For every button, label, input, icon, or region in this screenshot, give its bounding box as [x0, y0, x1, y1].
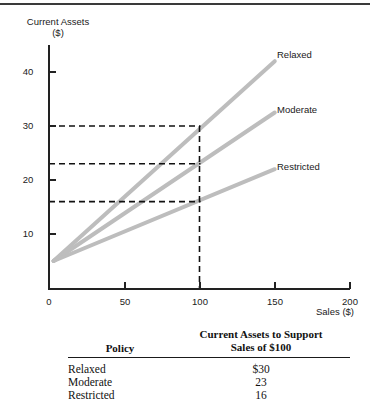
y-axis-title-line1: Current Assets — [12, 16, 104, 27]
chart-panel: Current Assets ($) Sales ($) 40 30 20 10… — [0, 0, 370, 325]
summary-table: Policy Current Assets to Support Sales o… — [68, 328, 350, 401]
y-tick-label-40: 40 — [14, 66, 42, 77]
table-header-rule-cell — [68, 355, 350, 362]
line-restricted — [54, 169, 275, 261]
x-axis-title: Sales ($) — [268, 306, 354, 317]
series-label-relaxed: Relaxed — [277, 49, 312, 60]
y-axis-ticks — [49, 72, 56, 234]
table-header-row: Policy Current Assets to Support Sales o… — [68, 328, 350, 355]
table-header-rule — [68, 357, 350, 358]
y-tick-label-30: 30 — [14, 120, 42, 131]
y-axis-title-line2: ($) — [12, 27, 104, 38]
x-tick-label-100: 100 — [186, 296, 214, 307]
x-tick-label-200: 200 — [336, 296, 364, 307]
series-label-moderate: Moderate — [277, 104, 317, 115]
series-label-restricted: Restricted — [277, 161, 320, 172]
cell-policy-moderate: Moderate — [68, 375, 172, 388]
table-body: Relaxed $30 Moderate 23 Restricted 16 — [68, 362, 350, 401]
x-tick-label-50: 50 — [111, 296, 139, 307]
y-tick-label-10: 10 — [14, 228, 42, 239]
y-tick-label-20: 20 — [14, 174, 42, 185]
table-row: Moderate 23 — [68, 375, 350, 388]
series-lines — [54, 61, 275, 261]
cell-value-restricted: 16 — [172, 388, 350, 401]
line-relaxed — [54, 61, 275, 261]
cell-policy-relaxed: Relaxed — [68, 362, 172, 375]
table-header-rule-row — [68, 355, 350, 362]
header-current-assets-line1: Current Assets to Support — [172, 328, 350, 341]
cell-value-moderate: 23 — [172, 375, 350, 388]
summary-table-block: Policy Current Assets to Support Sales o… — [0, 325, 370, 416]
figure-root: Current Assets ($) Sales ($) 40 30 20 10… — [0, 0, 370, 416]
cell-value-relaxed: $30 — [172, 362, 350, 375]
header-policy: Policy — [68, 328, 172, 355]
table-head: Policy Current Assets to Support Sales o… — [68, 328, 350, 362]
header-current-assets: Current Assets to Support Sales of $100 — [172, 328, 350, 355]
table-row: Restricted 16 — [68, 388, 350, 401]
cell-policy-restricted: Restricted — [68, 388, 172, 401]
header-current-assets-line2: Sales of $100 — [172, 341, 350, 354]
x-tick-label-0: 0 — [35, 296, 63, 307]
x-tick-label-150: 150 — [261, 296, 289, 307]
line-moderate — [54, 113, 275, 262]
y-axis-title: Current Assets ($) — [12, 16, 104, 38]
table-row: Relaxed $30 — [68, 362, 350, 375]
x-axis-ticks — [49, 282, 350, 289]
